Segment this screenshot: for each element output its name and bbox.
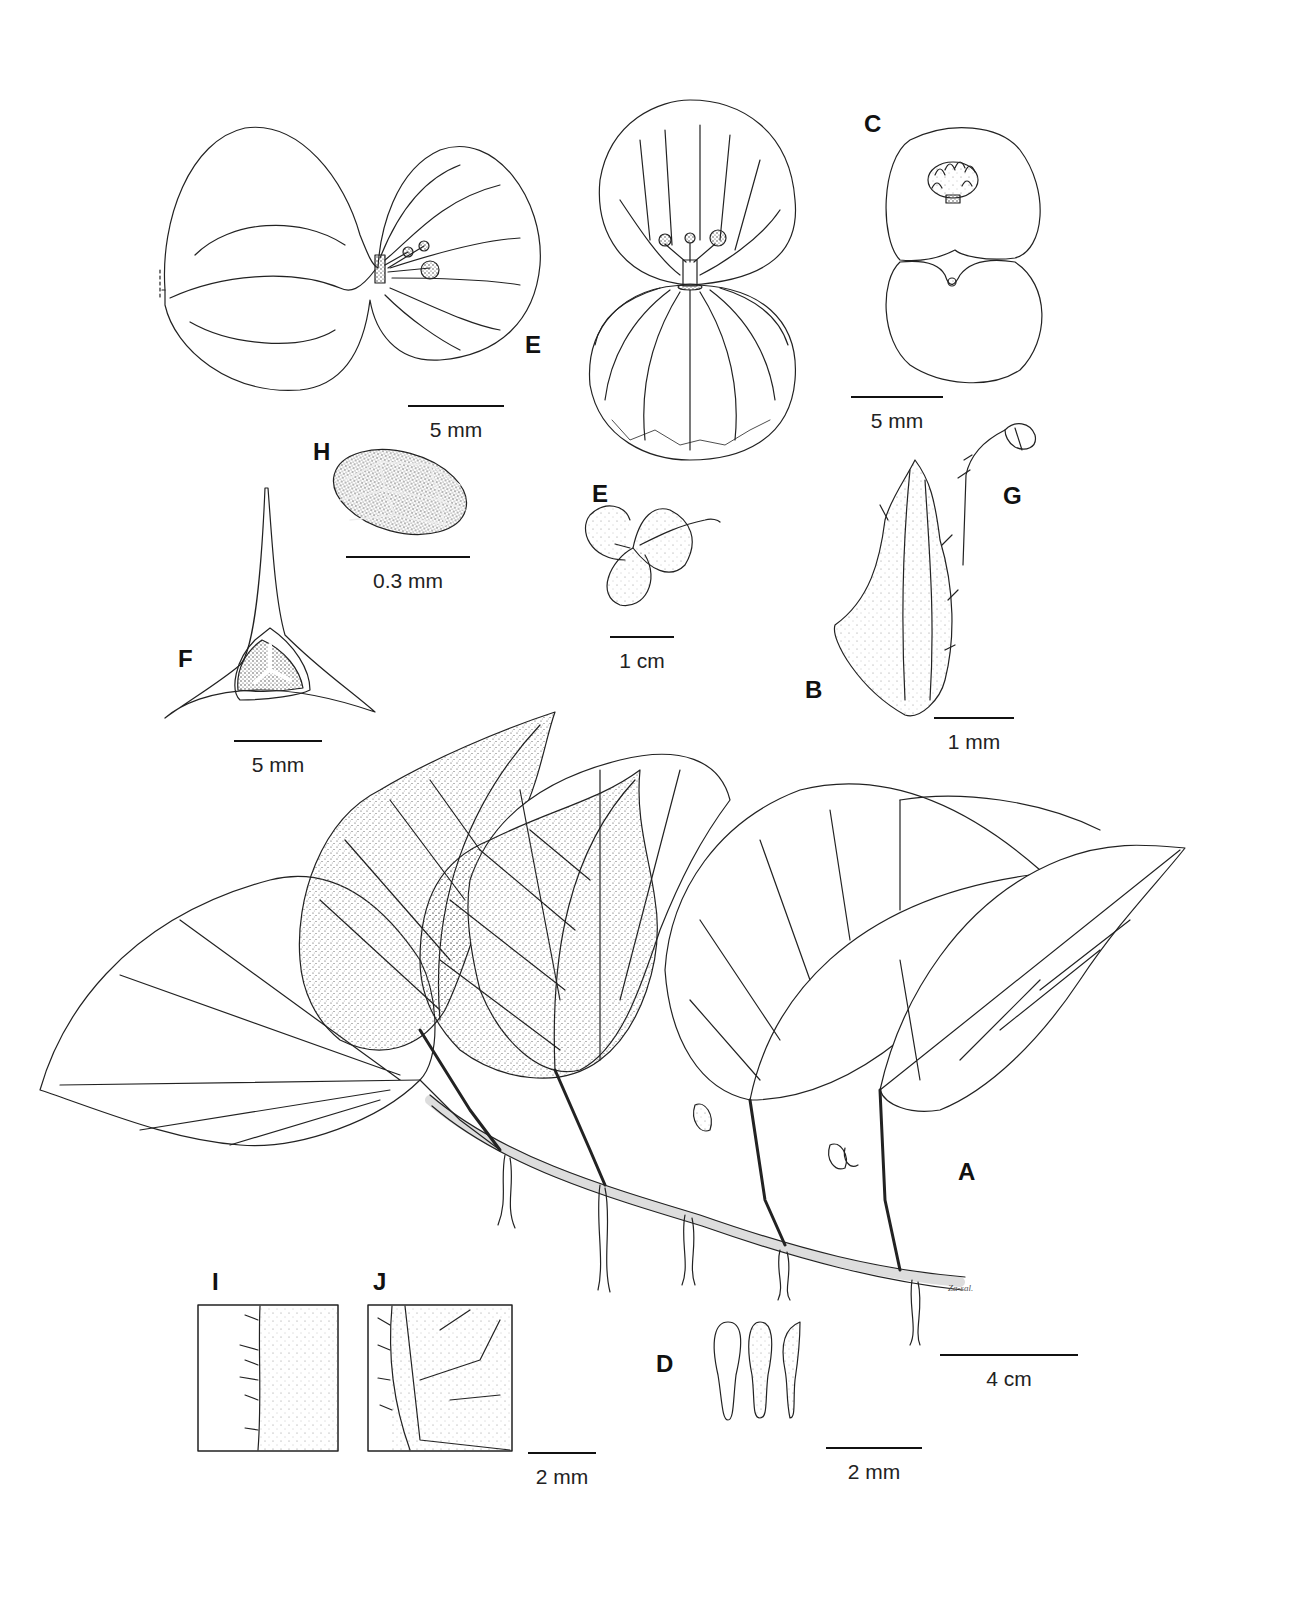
label-g: G — [1003, 484, 1022, 508]
scale-label: 2 mm — [528, 1466, 596, 1487]
panel-e-small-flower — [585, 506, 720, 606]
panel-b-stipule — [834, 460, 958, 716]
panel-a-habit — [40, 712, 1185, 1345]
scale-bar-b: 1 mm — [934, 717, 1014, 752]
panel-g-pedicel — [958, 424, 1035, 565]
scale-bar-h: 0.3 mm — [346, 556, 470, 591]
scale-bar-d: 2 mm — [826, 1447, 922, 1482]
label-e-top: E — [525, 333, 541, 357]
panel-e-flower-side — [160, 127, 540, 390]
scale-label: 5 mm — [234, 754, 322, 775]
scale-label: 1 mm — [934, 731, 1014, 752]
label-b: B — [805, 678, 822, 702]
label-d: D — [656, 1352, 673, 1376]
panel-h-seed — [324, 436, 476, 548]
scale-label: 5 mm — [851, 410, 943, 431]
panel-f-ovary-section — [165, 488, 375, 718]
botanical-plate: C E H E G F B A I J D 5 mm 5 mm 0.3 mm 1… — [0, 0, 1292, 1598]
scale-bar-e-top: 5 mm — [408, 405, 504, 440]
label-f: F — [178, 647, 193, 671]
scale-bar-f: 5 mm — [234, 740, 322, 775]
label-j: J — [373, 1270, 386, 1294]
label-i: I — [212, 1270, 219, 1294]
scale-label: 0.3 mm — [346, 570, 470, 591]
label-a: A — [958, 1160, 975, 1184]
scale-bar-e-small: 1 cm — [610, 636, 674, 671]
scale-label: 1 cm — [610, 650, 674, 671]
plate-artwork — [0, 0, 1292, 1598]
label-e-small: E — [592, 482, 608, 506]
scale-label: 4 cm — [940, 1368, 1078, 1389]
scale-label: 5 mm — [408, 419, 504, 440]
panel-i-margin-detail — [198, 1305, 338, 1451]
artist-signature: Za-sal. — [948, 1283, 973, 1293]
panel-e-flower-front — [590, 100, 796, 460]
scale-bar-ij: 2 mm — [528, 1452, 596, 1487]
scale-bar-a: 4 cm — [940, 1354, 1078, 1389]
label-c: C — [864, 112, 881, 136]
panel-d-stamens — [714, 1322, 800, 1420]
panel-j-venation-detail — [368, 1305, 512, 1451]
panel-c-staminate-flower — [886, 128, 1042, 383]
label-h: H — [313, 440, 330, 464]
scale-bar-c: 5 mm — [851, 396, 943, 431]
scale-label: 2 mm — [826, 1461, 922, 1482]
